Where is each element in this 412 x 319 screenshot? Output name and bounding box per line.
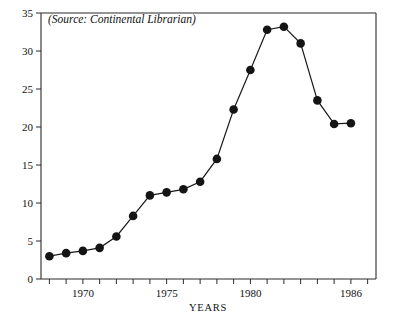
data-point [213,155,222,164]
data-point [79,247,88,256]
y-tick-label: 15 [22,159,34,171]
y-tick-label: 5 [28,235,34,247]
data-point [162,188,171,197]
source-annotation: (Source: Continental Librarian) [48,13,196,25]
data-point [95,244,104,253]
y-tick-label: 35 [22,7,34,19]
x-tick-label: 1970 [72,287,95,299]
data-point [196,177,205,186]
x-tick-label: 1986 [340,287,363,299]
plot-area: 05101520253035 1970197519801986 YEARS [0,0,412,319]
data-line [49,27,351,257]
data-point [246,66,255,75]
y-tick-label: 10 [22,197,34,209]
data-point [129,212,138,221]
y-tick-label: 30 [22,45,34,57]
y-tick-label: 20 [22,121,34,133]
y-tick-label: 0 [28,273,34,285]
data-point [62,249,71,258]
x-tick-label: 1975 [156,287,179,299]
data-point [45,252,54,261]
data-point [112,232,121,241]
data-point [330,120,339,129]
x-axis-title: YEARS [189,302,227,313]
x-tick-label: 1980 [239,287,262,299]
data-point [146,191,155,200]
data-point [229,105,238,114]
data-point [179,185,188,194]
data-points [45,22,355,260]
data-point [263,25,272,34]
data-point [347,119,356,128]
data-point [296,39,305,48]
y-tick-label: 25 [22,83,34,95]
y-axis-ticks: 05101520253035 [22,7,41,285]
x-axis-ticks: 1970197519801986 [49,279,367,299]
data-point [280,22,289,31]
chart-container: (Source: Continental Librarian) DOLLARS … [0,0,412,319]
data-point [313,96,322,105]
